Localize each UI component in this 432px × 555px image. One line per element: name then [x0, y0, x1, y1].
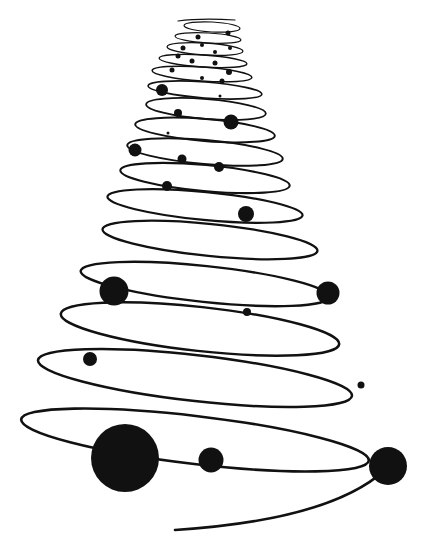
ornament-ball — [238, 206, 254, 222]
ornament-ball — [196, 35, 201, 40]
ornament-ball — [226, 69, 232, 75]
ornament-ball — [162, 181, 172, 191]
spiral-christmas-tree-illustration — [0, 0, 432, 555]
ornament-ball — [213, 50, 217, 54]
ornament-ball — [214, 162, 224, 172]
ornament-ball — [226, 31, 231, 36]
ornament-ball — [220, 79, 225, 84]
ornament-ball — [178, 155, 187, 164]
ornament-ball — [228, 46, 232, 50]
ornament-ball — [167, 132, 170, 135]
ornament-ball — [219, 95, 222, 98]
ornament-ball — [100, 277, 129, 306]
ornament-ball — [213, 61, 218, 66]
ornament-ball — [317, 282, 340, 305]
ornament-ball — [176, 54, 181, 59]
ornament-ball — [369, 447, 407, 485]
ornament-ball — [156, 84, 168, 96]
ornament-ball — [129, 144, 142, 157]
illustration-canvas — [0, 0, 432, 555]
ornament-ball — [83, 352, 97, 366]
ornament-ball — [181, 46, 186, 51]
ornament-ball — [199, 448, 224, 473]
ornament-ball — [174, 109, 182, 117]
ornament-ball — [170, 68, 175, 73]
ornament-ball — [358, 382, 365, 389]
ornament-ball — [200, 43, 204, 47]
ornament-ball — [243, 308, 251, 316]
ornament-ball — [91, 424, 159, 492]
ornament-ball — [190, 59, 195, 64]
ornament-ball — [224, 115, 239, 130]
ornament-ball — [200, 76, 204, 80]
